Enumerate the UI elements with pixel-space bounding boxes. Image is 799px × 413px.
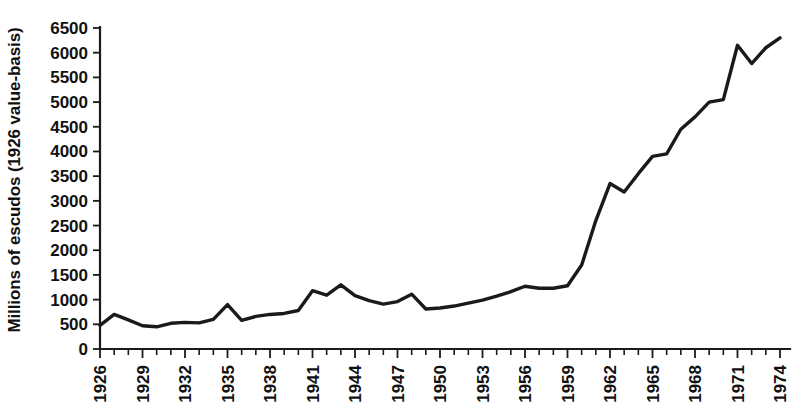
y-tick-label: 2500 xyxy=(50,217,88,236)
y-tick-label: 6000 xyxy=(50,44,88,63)
x-tick-label: 1953 xyxy=(474,365,493,403)
x-tick-label: 1962 xyxy=(601,365,620,403)
y-tick-label: 5500 xyxy=(50,68,88,87)
x-tick-label: 1959 xyxy=(559,365,578,403)
y-tick-label: 4500 xyxy=(50,118,88,137)
y-tick-label: 2000 xyxy=(50,241,88,260)
y-tick-label: 5000 xyxy=(50,93,88,112)
x-tick-label: 1929 xyxy=(134,365,153,403)
x-tick-label: 1938 xyxy=(261,365,280,403)
x-tick-label: 1950 xyxy=(431,365,450,403)
x-tick-label: 1971 xyxy=(729,365,748,403)
axis-lines xyxy=(100,27,790,349)
x-tick-label: 1935 xyxy=(219,365,238,403)
x-tick-label: 1941 xyxy=(304,365,323,403)
x-tick-label: 1965 xyxy=(644,365,663,403)
y-tick-group: 0500100015002000250030003500400045005000… xyxy=(50,19,100,359)
y-tick-label: 0 xyxy=(79,340,88,359)
data-series-line xyxy=(100,38,780,327)
y-tick-label: 3000 xyxy=(50,192,88,211)
y-tick-label: 3500 xyxy=(50,167,88,186)
y-tick-label: 500 xyxy=(60,315,88,334)
y-tick-label: 4000 xyxy=(50,142,88,161)
y-tick-label: 6500 xyxy=(50,19,88,38)
x-tick-label: 1974 xyxy=(771,364,790,402)
x-tick-label: 1947 xyxy=(389,365,408,403)
y-tick-label: 1000 xyxy=(50,291,88,310)
x-tick-group xyxy=(100,349,780,358)
x-tick-label: 1932 xyxy=(176,365,195,403)
line-chart: Millions of escudos (1926 value-basis) 0… xyxy=(0,0,799,413)
x-tick-label: 1956 xyxy=(516,365,535,403)
x-tick-label-group: 1926192919321935193819411944194719501953… xyxy=(91,364,790,402)
x-tick-label: 1944 xyxy=(346,364,365,402)
plot-area: 0500100015002000250030003500400045005000… xyxy=(0,0,799,413)
x-tick-label: 1968 xyxy=(686,365,705,403)
x-tick-label: 1926 xyxy=(91,365,110,403)
y-tick-label: 1500 xyxy=(50,266,88,285)
